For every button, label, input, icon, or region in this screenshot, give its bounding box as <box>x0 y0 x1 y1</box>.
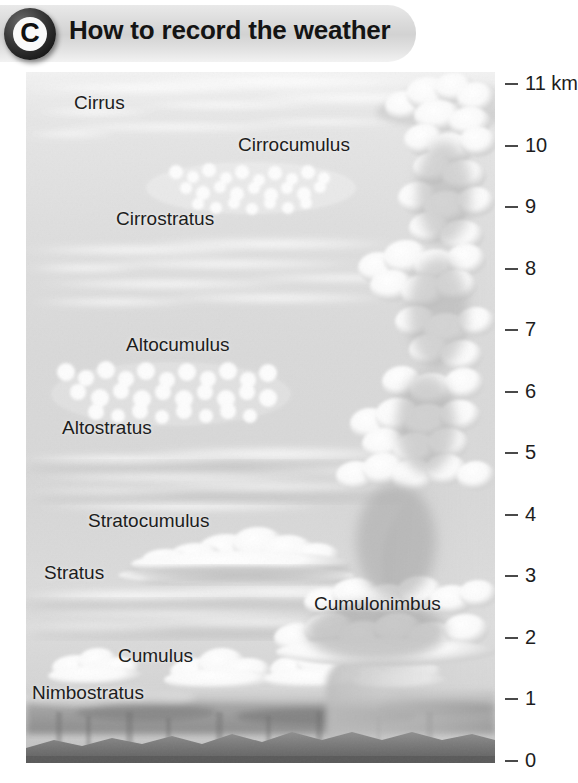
cloud-label-cirrus: Cirrus <box>74 92 125 114</box>
circled-letter-c-icon: C <box>4 8 56 60</box>
page-title: How to record the weather <box>69 15 391 46</box>
axis-tick-label: 9 <box>525 195 536 218</box>
axis-tick-label: 4 <box>525 503 536 526</box>
cloud-label-altostratus: Altostratus <box>62 417 152 439</box>
axis-tick-label: 2 <box>525 626 536 649</box>
cloud-label-altocumulus: Altocumulus <box>126 334 230 356</box>
tick-dash-icon <box>505 391 518 393</box>
axis-tick-label: 11 km <box>525 72 578 95</box>
cloud-label-cumulonimbus: Cumulonimbus <box>314 593 441 615</box>
altitude-axis: 11 km 10 9 8 7 6 5 4 3 2 1 0 <box>495 72 575 772</box>
tick-dash-icon <box>505 698 518 700</box>
axis-tick-label: 5 <box>525 441 536 464</box>
tick-dash-icon <box>505 329 518 331</box>
cloud-label-stratus: Stratus <box>44 562 104 584</box>
tick-dash-icon <box>505 83 518 85</box>
cloud-label-cumulus: Cumulus <box>118 645 193 667</box>
axis-tick-label: 0 <box>525 749 536 772</box>
tick-dash-icon <box>505 206 518 208</box>
badge-letter: C <box>20 20 40 47</box>
cloud-label-cirrostratus: Cirrostratus <box>116 208 214 230</box>
cloud-types-altitude-diagram: Cirrus Cirrocumulus Cirrostratus Altocum… <box>26 72 495 763</box>
tick-dash-icon <box>505 575 518 577</box>
tick-dash-icon <box>505 760 518 762</box>
axis-tick-label: 10 <box>525 134 547 157</box>
tick-dash-icon <box>505 514 518 516</box>
tick-dash-icon <box>505 268 518 270</box>
cloud-label-stratocumulus: Stratocumulus <box>88 510 209 532</box>
tick-dash-icon <box>505 145 518 147</box>
axis-tick-label: 3 <box>525 564 536 587</box>
cloud-label-cirrocumulus: Cirrocumulus <box>238 134 350 156</box>
axis-tick-label: 6 <box>525 380 536 403</box>
axis-tick-label: 7 <box>525 318 536 341</box>
tick-dash-icon <box>505 452 518 454</box>
cloud-label-nimbostratus: Nimbostratus <box>32 682 144 704</box>
axis-tick-label: 1 <box>525 687 536 710</box>
badge-inner-ring: C <box>13 17 47 51</box>
axis-tick-label: 8 <box>525 257 536 280</box>
tick-dash-icon <box>505 637 518 639</box>
